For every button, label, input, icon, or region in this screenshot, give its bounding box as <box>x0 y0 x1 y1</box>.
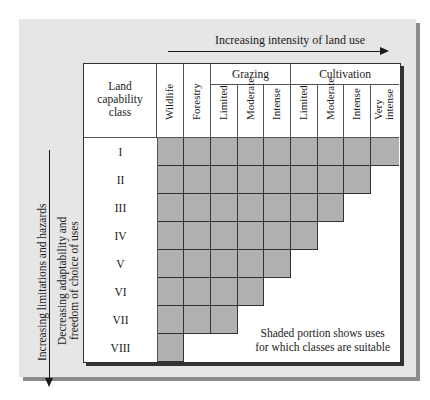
col-header-label: Limited <box>298 85 309 120</box>
left-axis-label-inner-2: freedom of choice of uses <box>68 221 80 340</box>
suitable-cell <box>184 250 211 278</box>
row-label: V <box>84 250 157 278</box>
suitable-cell <box>344 138 371 166</box>
suitable-cell <box>158 166 184 194</box>
suitable-cell <box>238 250 264 278</box>
col-header-label: intense <box>384 89 395 120</box>
suitable-cell <box>184 166 211 194</box>
suitable-cell <box>158 222 184 250</box>
col-header-label: Moderate <box>325 78 336 120</box>
suitable-cell <box>264 222 291 250</box>
suitable-cell <box>184 138 211 166</box>
row-label: IV <box>84 222 157 250</box>
suitable-cell <box>238 138 264 166</box>
down-arrow-icon <box>49 150 50 378</box>
suitable-cell <box>318 194 344 222</box>
left-axis-label-inner-1: Decreasing adaptability and <box>56 217 68 345</box>
legend-note-line: for which classes are suitable <box>255 340 390 354</box>
suitable-cell <box>184 278 211 306</box>
col-header-label: Wildlife <box>164 84 175 120</box>
row-label: VI <box>84 278 157 306</box>
row-label: VII <box>84 306 157 334</box>
top-axis-label: Increasing intensity of land use <box>180 33 400 48</box>
suitable-cell <box>211 306 238 334</box>
group-header-cultivation: Cultivation <box>291 64 399 85</box>
suitable-cell <box>238 166 264 194</box>
suitable-cell <box>184 194 211 222</box>
suitable-cell <box>291 138 318 166</box>
row-label: II <box>84 166 157 194</box>
col-header-wildlife: Wildlife <box>157 64 184 138</box>
suitable-cell <box>264 166 291 194</box>
suitable-cell <box>318 138 344 166</box>
suitable-cell <box>291 222 318 250</box>
row-label: I <box>84 138 157 166</box>
suitable-cell <box>344 166 371 194</box>
suitable-cell <box>211 278 238 306</box>
col-header-label: Intense <box>351 88 362 120</box>
suitable-cell <box>264 194 291 222</box>
suitable-cell <box>264 138 291 166</box>
suitable-cell <box>158 194 184 222</box>
suitable-cell <box>158 250 184 278</box>
suitable-cell <box>238 222 264 250</box>
land-capability-table: Land capability class Wildlife Forestry … <box>83 63 401 363</box>
suitable-cell <box>291 166 318 194</box>
suitable-cell <box>238 278 264 306</box>
right-arrow-icon <box>168 51 380 52</box>
suitable-cell <box>264 250 291 278</box>
col-header-label: Limited <box>218 85 229 120</box>
corner-header-line: capability <box>84 93 156 106</box>
left-axis-label-outer: Increasing limitations and hazards <box>36 204 48 361</box>
suitable-cell <box>211 166 238 194</box>
suitable-cell <box>238 194 264 222</box>
col-header-grazing-limited: Limited <box>211 85 238 138</box>
col-header-forestry: Forestry <box>184 64 211 138</box>
suitable-cell <box>184 222 211 250</box>
suitable-cell <box>158 278 184 306</box>
suitable-cell <box>291 194 318 222</box>
col-header-grazing-intense: Intense <box>264 85 291 138</box>
suitable-cell <box>211 194 238 222</box>
col-header-cultivation-very-intense: Very intense <box>371 85 399 138</box>
row-label: VIII <box>84 334 157 362</box>
col-header-cultivation-limited: Limited <box>291 85 318 138</box>
corner-header: Land capability class <box>84 64 157 138</box>
col-header-label: Intense <box>271 88 282 120</box>
suitable-cell <box>184 306 211 334</box>
suitable-cell <box>158 306 184 334</box>
legend-note-line: Shaded portion shows uses <box>255 326 390 340</box>
suitable-cell <box>211 138 238 166</box>
col-header-label: Moderate <box>245 78 256 120</box>
row-label: III <box>84 194 157 222</box>
legend-note: Shaded portion shows uses for which clas… <box>255 326 390 354</box>
corner-header-line: class <box>84 106 156 119</box>
col-header-label: Forestry <box>191 83 202 120</box>
suitable-cell <box>211 250 238 278</box>
col-header-cultivation-moderate: Moderate <box>318 85 344 138</box>
suitable-cell <box>158 138 184 166</box>
corner-header-line: Land <box>84 80 156 93</box>
col-header-cultivation-intense: Intense <box>344 85 371 138</box>
suitable-cell <box>371 138 399 166</box>
suitable-cell <box>211 222 238 250</box>
suitable-cell <box>158 334 184 362</box>
suitable-cell <box>318 166 344 194</box>
col-header-grazing-moderate: Moderate <box>238 85 264 138</box>
